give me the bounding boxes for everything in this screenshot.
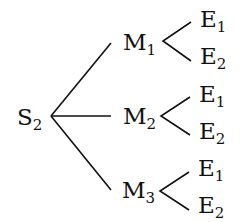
node-m3: M3 bbox=[122, 177, 155, 207]
leaf-branches bbox=[160, 22, 191, 210]
branch-m2-e bbox=[161, 97, 190, 135]
leaf-m3-e1: E1 bbox=[198, 155, 224, 185]
branch-m1-e bbox=[163, 22, 191, 61]
leaf-m2-e1: E1 bbox=[199, 81, 225, 111]
leaf-m2-e2: E2 bbox=[199, 118, 225, 148]
node-m1: M1 bbox=[123, 29, 156, 59]
tree-diagram: S2 M1 M2 M3 E1 E2 E1 E2 E1 E2 bbox=[0, 0, 248, 222]
leaf-m3-e2: E2 bbox=[198, 192, 224, 222]
leaf-m1-e2: E2 bbox=[200, 43, 226, 73]
root-node: S2 bbox=[17, 104, 42, 134]
leaf-m1-e1: E1 bbox=[200, 6, 226, 36]
branch-s2-m3 bbox=[51, 116, 111, 190]
root-branches bbox=[51, 43, 111, 190]
node-m2: M2 bbox=[123, 103, 156, 133]
branch-s2-m1 bbox=[51, 43, 111, 116]
branch-m3-e bbox=[160, 172, 189, 210]
